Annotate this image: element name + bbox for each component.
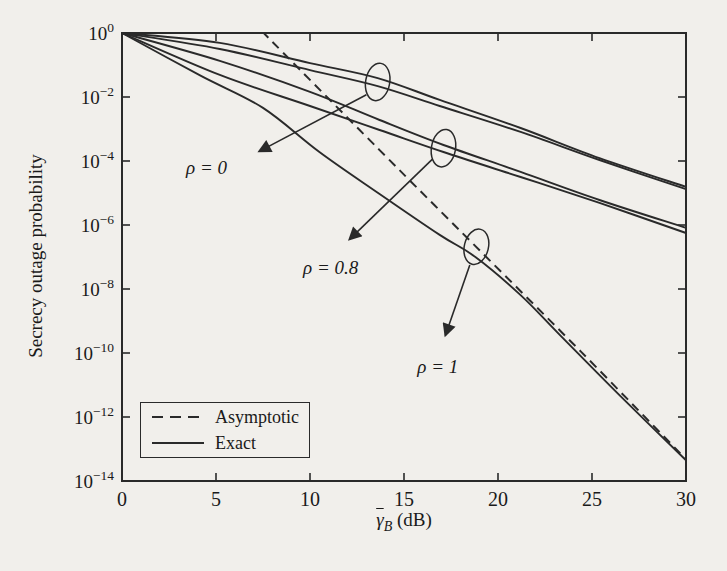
- x-tick-label-25: 25: [582, 488, 602, 510]
- x-tick-label-30: 30: [676, 488, 696, 510]
- y-tick-label-1e-10: 10−10: [74, 340, 114, 364]
- y-tick-label-1e-12: 10−12: [74, 404, 114, 428]
- legend-item-exact: Exact: [141, 431, 309, 455]
- x-tick-label-20: 20: [488, 488, 508, 510]
- y-tick-exponent: −10: [93, 340, 114, 355]
- y-tick-exponent: −14: [93, 468, 114, 483]
- y-tick-label-1e-4: 10−4: [81, 148, 115, 172]
- legend-label-exact: Exact: [215, 434, 256, 452]
- chart-canvas: ρ = 0ρ = 0.8ρ = 1 05101520253010010−210−…: [0, 0, 727, 571]
- gamma-bar-symbol: γ: [376, 509, 384, 530]
- legend-dash-sample-icon: [150, 413, 206, 421]
- y-tick-label-1e0: 100: [88, 20, 114, 44]
- y-tick-label-1e-8: 10−8: [81, 276, 115, 300]
- series-rho1-asymptotic: [262, 31, 686, 459]
- y-tick-exponent: −12: [93, 404, 114, 419]
- y-tick-exponent: −6: [100, 212, 115, 227]
- x-axis-unit: (dB): [392, 509, 432, 530]
- annotation-arrow-0: [259, 95, 366, 152]
- series-rho08-curve-1: [122, 33, 686, 228]
- y-tick-label-1e-2: 10−2: [81, 84, 114, 108]
- x-tick-label-15: 15: [394, 488, 414, 510]
- x-axis-label: γB (dB): [376, 509, 432, 535]
- y-tick-exponent: −2: [100, 84, 114, 99]
- annotation-arrow-2: [445, 265, 469, 335]
- annotation-label-0: ρ = 0: [185, 157, 227, 178]
- annotation-label-1: ρ = 0.8: [302, 257, 359, 278]
- x-tick-label-0: 0: [117, 488, 127, 510]
- y-tick-label-1e-6: 10−6: [81, 212, 115, 236]
- y-tick-exponent: −4: [100, 148, 115, 163]
- legend: Asymptotic Exact: [140, 402, 310, 458]
- gamma-subscript: B: [384, 519, 393, 534]
- legend-solid-sample-icon: [150, 439, 206, 447]
- legend-item-asymptotic: Asymptotic: [141, 405, 309, 429]
- figure: ρ = 0ρ = 0.8ρ = 1 05101520253010010−210−…: [0, 0, 727, 571]
- annotation-arrow-1: [349, 159, 432, 239]
- series-rho1-exact: [122, 33, 686, 460]
- y-tick-exponent: 0: [107, 20, 114, 35]
- legend-label-asymptotic: Asymptotic: [215, 408, 299, 426]
- annotation-label-2: ρ = 1: [416, 356, 458, 377]
- curves: [122, 31, 686, 460]
- x-tick-label-5: 5: [211, 488, 221, 510]
- y-tick-label-1e-14: 10−14: [74, 468, 114, 492]
- y-tick-exponent: −8: [100, 276, 115, 291]
- y-axis-label: Secrecy outage probability: [25, 154, 47, 358]
- series-rho08-curve-2: [122, 33, 686, 233]
- x-tick-label-10: 10: [300, 488, 320, 510]
